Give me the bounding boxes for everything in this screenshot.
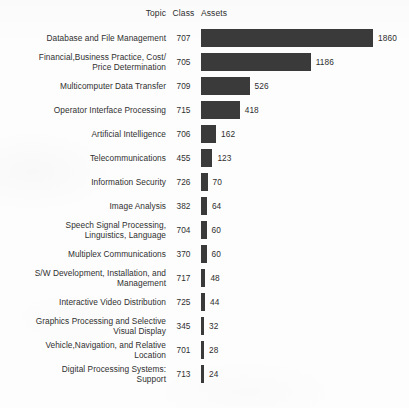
table-row: Vehicle,Navigation, and Relative Locatio… (0, 338, 409, 362)
bar (201, 125, 216, 143)
bar (201, 221, 207, 239)
bar-value-label: 24 (209, 369, 218, 379)
topic-label: Financial,Business Practice, Cost/ Price… (0, 50, 166, 74)
table-row: Database and File Management7071860 (0, 26, 409, 50)
bar-value-label: 60 (212, 225, 221, 235)
class-code: 382 (166, 194, 201, 218)
bar-value-label: 64 (212, 201, 221, 211)
class-code: 725 (166, 290, 201, 314)
bar-value-label: 1860 (378, 33, 397, 43)
topic-label: Vehicle,Navigation, and Relative Locatio… (0, 338, 166, 362)
bar-value-label: 28 (209, 345, 218, 355)
class-code: 701 (166, 338, 201, 362)
table-header-row: Topic Class Assets (0, 0, 409, 26)
assets-bar-cell: 70 (201, 170, 409, 194)
class-code: 345 (166, 314, 201, 338)
table-row: Multiplex Communications37060 (0, 242, 409, 266)
bar-value-label: 60 (212, 249, 221, 259)
class-code: 717 (166, 266, 201, 290)
topic-label: Information Security (0, 170, 166, 194)
bar-row: 24 (201, 362, 409, 386)
bar-row: 1186 (201, 50, 409, 74)
table-row: Information Security72670 (0, 170, 409, 194)
bar-row: 1860 (201, 26, 409, 50)
class-code: 709 (166, 74, 201, 98)
table-row: Multicomputer Data Transfer709526 (0, 74, 409, 98)
table-row: Telecommunications455123 (0, 146, 409, 170)
bar (201, 149, 212, 167)
topic-label: Graphics Processing and Selective Visual… (0, 314, 166, 338)
table-row: Interactive Video Distribution72544 (0, 290, 409, 314)
class-code: 715 (166, 98, 201, 122)
assets-bar-cell: 32 (201, 314, 409, 338)
assets-bar-cell: 1186 (201, 50, 409, 74)
bar-row: 162 (201, 122, 409, 146)
bar-row: 32 (201, 314, 409, 338)
class-code: 707 (166, 26, 201, 50)
bar (201, 53, 311, 71)
bar (201, 29, 373, 47)
bar-value-label: 1186 (316, 57, 334, 67)
table-row: Image Analysis38264 (0, 194, 409, 218)
topic-label: Multiplex Communications (0, 242, 166, 266)
topic-label: Digital Processing Systems: Support (0, 362, 166, 386)
bar (201, 197, 207, 215)
class-code: 706 (166, 122, 201, 146)
bar-row: 48 (201, 266, 409, 290)
assets-bar-cell: 64 (201, 194, 409, 218)
table-row: Graphics Processing and Selective Visual… (0, 314, 409, 338)
bar (201, 317, 204, 335)
bar (201, 269, 205, 287)
bar-value-label: 48 (210, 273, 219, 283)
assets-bar-cell: 526 (201, 74, 409, 98)
topic-label: Interactive Video Distribution (0, 290, 166, 314)
assets-bar-cell: 24 (201, 362, 409, 386)
assets-bar-cell: 60 (201, 242, 409, 266)
bar-row: 28 (201, 338, 409, 362)
bar-value-label: 44 (210, 297, 219, 307)
bar (201, 293, 205, 311)
bar-value-label: 123 (217, 153, 231, 163)
assets-bar-cell: 418 (201, 98, 409, 122)
bar-row: 123 (201, 146, 409, 170)
class-code: 713 (166, 362, 201, 386)
bar (201, 365, 204, 383)
bar-row: 70 (201, 170, 409, 194)
topic-label: Speech Signal Processing, Linguistics, L… (0, 218, 166, 242)
bar-value-label: 32 (209, 321, 218, 331)
topic-label: S/W Development, Installation, and Manag… (0, 266, 166, 290)
bar-row: 64 (201, 194, 409, 218)
table-row: Speech Signal Processing, Linguistics, L… (0, 218, 409, 242)
assets-bar-cell: 123 (201, 146, 409, 170)
class-code: 726 (166, 170, 201, 194)
topic-label: Operator Interface Processing (0, 98, 166, 122)
column-header-topic: Topic (0, 0, 166, 26)
topic-label: Image Analysis (0, 194, 166, 218)
assets-bar-cell: 162 (201, 122, 409, 146)
column-header-assets: Assets (201, 0, 409, 26)
bar-value-label: 70 (213, 177, 222, 187)
assets-bar-cell: 28 (201, 338, 409, 362)
table-row: Financial,Business Practice, Cost/ Price… (0, 50, 409, 74)
table-row: Operator Interface Processing715418 (0, 98, 409, 122)
topic-label: Database and File Management (0, 26, 166, 50)
bar-row: 418 (201, 98, 409, 122)
bar-row: 526 (201, 74, 409, 98)
assets-bar-cell: 60 (201, 218, 409, 242)
table-row: S/W Development, Installation, and Manag… (0, 266, 409, 290)
topic-label: Multicomputer Data Transfer (0, 74, 166, 98)
bar (201, 101, 240, 119)
bar-value-label: 162 (221, 129, 235, 139)
table-row: Digital Processing Systems: Support71324 (0, 362, 409, 386)
chart-table: Topic Class Assets Database and File Man… (0, 0, 409, 386)
class-code: 455 (166, 146, 201, 170)
class-code: 705 (166, 50, 201, 74)
bar (201, 173, 208, 191)
bar (201, 77, 250, 95)
table-body: Database and File Management7071860Finan… (0, 26, 409, 386)
bar-row: 60 (201, 242, 409, 266)
bar-value-label: 526 (255, 81, 269, 91)
bar-row: 60 (201, 218, 409, 242)
class-code: 370 (166, 242, 201, 266)
bar-row: 44 (201, 290, 409, 314)
